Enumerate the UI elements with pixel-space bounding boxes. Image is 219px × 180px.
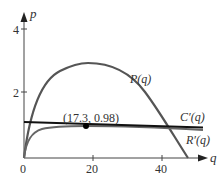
y-axis-label: p [29, 6, 37, 21]
y-axis-arrow-icon [21, 12, 28, 22]
point-label: (17.3, 0.98) [63, 111, 119, 125]
r-prime-curve [24, 126, 203, 158]
p-curve-label: P(q) [129, 72, 151, 86]
chart: 4 2 0 20 40 p q (17.3, 0.98) P(q) C′(q) … [0, 0, 219, 180]
x-tick-label-40: 40 [155, 162, 167, 176]
r-prime-label: R′(q) [185, 133, 210, 147]
x-axis-label: q [210, 150, 217, 165]
x-axis-arrow-icon [198, 155, 208, 162]
y-tick-label-4: 4 [13, 23, 19, 37]
x-tick-label-20: 20 [86, 162, 98, 176]
axes [21, 12, 209, 162]
y-tick-label-2: 2 [13, 86, 19, 100]
x-tick-label-0: 0 [20, 162, 26, 176]
c-prime-label: C′(q) [180, 110, 205, 124]
